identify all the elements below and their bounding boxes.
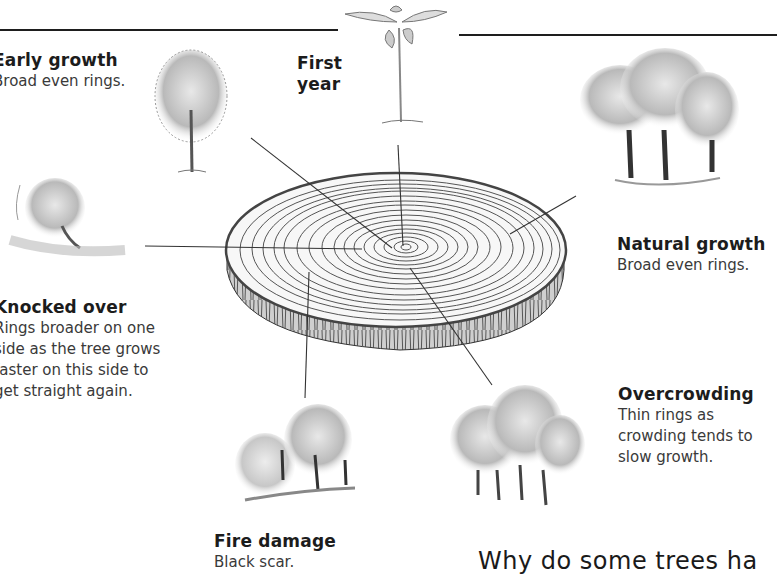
seedling-illustration xyxy=(345,6,447,123)
crowded-trees-illustration xyxy=(450,385,585,505)
label-overcrowding-desc-1: Thin rings as xyxy=(618,405,754,426)
young-tree-illustration xyxy=(155,50,227,172)
label-first-year: First year xyxy=(297,53,342,95)
label-fire-damage-title: Fire damage xyxy=(214,531,336,552)
label-natural-growth: Natural growth Broad even rings. xyxy=(617,234,766,276)
label-overcrowding: Overcrowding Thin rings as crowding tend… xyxy=(618,384,754,468)
section-heading: Why do some trees ha xyxy=(478,547,758,575)
label-knocked-over-desc-2: side as the tree grows xyxy=(0,339,160,360)
label-natural-growth-desc: Broad even rings. xyxy=(617,255,766,276)
label-fire-damage-desc: Black scar. xyxy=(214,552,336,573)
label-overcrowding-title: Overcrowding xyxy=(618,384,754,405)
label-first-year-line2: year xyxy=(297,74,342,95)
label-fire-damage: Fire damage Black scar. xyxy=(214,531,336,573)
label-knocked-over-desc-1: Rings broader on one xyxy=(0,318,160,339)
label-knocked-over-desc-3: faster on this side to xyxy=(0,360,160,381)
label-knocked-over-title: Knocked over xyxy=(0,297,160,318)
label-natural-growth-title: Natural growth xyxy=(617,234,766,255)
tree-ring-cross-section xyxy=(226,173,566,350)
label-overcrowding-desc-2: crowding tends to xyxy=(618,426,754,447)
label-early-growth-desc: Broad even rings. xyxy=(0,71,125,92)
label-early-growth-title: Early growth xyxy=(0,50,125,71)
label-first-year-line1: First xyxy=(297,53,342,74)
label-knocked-over: Knocked over Rings broader on one side a… xyxy=(0,297,160,402)
label-early-growth: Early growth Broad even rings. xyxy=(0,50,125,92)
leaning-tree-illustration xyxy=(10,178,125,251)
label-overcrowding-desc-3: slow growth. xyxy=(618,447,754,468)
burnt-woodland-illustration xyxy=(235,404,355,500)
mature-trees-illustration xyxy=(580,48,739,185)
label-knocked-over-desc-4: get straight again. xyxy=(0,381,160,402)
